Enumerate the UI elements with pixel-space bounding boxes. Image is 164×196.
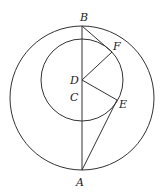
label-a: A bbox=[75, 176, 84, 189]
label-e: E bbox=[118, 98, 127, 111]
segment-ae bbox=[82, 100, 117, 170]
label-c: C bbox=[70, 91, 79, 104]
segment-df bbox=[82, 52, 112, 80]
label-d: D bbox=[69, 74, 79, 87]
label-f: F bbox=[112, 40, 121, 53]
geometry-diagram: B F D C E A bbox=[0, 0, 164, 196]
segment-de bbox=[82, 80, 117, 100]
label-b: B bbox=[79, 11, 88, 24]
